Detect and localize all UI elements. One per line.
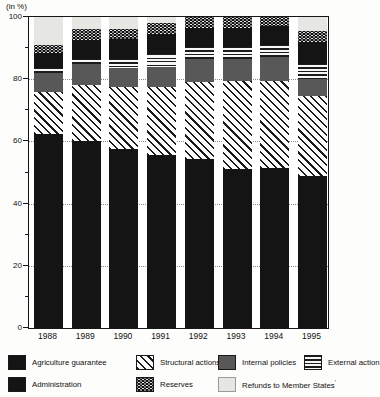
plot-area — [28, 16, 329, 329]
segment-refunds-1988 — [34, 17, 63, 45]
segment-agriculture-1990 — [109, 149, 138, 328]
bar-1992 — [185, 17, 214, 328]
legend-item-administration: Administration — [8, 377, 136, 392]
legend-label: Reserves — [160, 380, 193, 389]
segment-reserves-1991 — [147, 23, 176, 34]
segment-external-1995 — [298, 64, 327, 80]
segment-administration-1993 — [223, 28, 252, 47]
bars — [29, 17, 328, 328]
segment-internal-1994 — [260, 57, 289, 80]
segment-agriculture-1991 — [147, 155, 176, 328]
y-tick-label: 100 — [2, 12, 22, 21]
segment-internal-1993 — [223, 59, 252, 81]
y-tick-label: 20 — [2, 260, 22, 269]
legend-label: Refunds to Member States′ — [242, 379, 336, 390]
x-tick-label: 1990 — [108, 331, 137, 341]
segment-administration-1994 — [260, 26, 289, 45]
x-tick-label: 1989 — [71, 331, 100, 341]
segment-agriculture-1993 — [223, 169, 252, 328]
segment-internal-1991 — [147, 67, 176, 87]
legend-item-refunds: Refunds to Member States′ — [218, 377, 304, 392]
segment-external-1991 — [147, 54, 176, 66]
segment-internal-1992 — [185, 59, 214, 82]
segment-internal-1990 — [109, 68, 138, 87]
segment-administration-1989 — [72, 40, 101, 59]
footnote-mark: ′ — [335, 379, 336, 385]
segment-structural-1993 — [223, 81, 252, 170]
segment-reserves-1990 — [109, 29, 138, 38]
segment-reserves-1988 — [34, 45, 63, 53]
legend-item-agriculture: Agriculture guarantee — [8, 355, 136, 370]
segment-reserves-1993 — [223, 17, 252, 28]
y-tick-label: 40 — [2, 198, 22, 207]
x-tick-label: 1992 — [184, 331, 213, 341]
y-tick-label: 60 — [2, 136, 22, 145]
segment-external-1992 — [185, 47, 214, 59]
segment-reserves-1994 — [260, 17, 289, 26]
segment-structural-1995 — [298, 96, 327, 175]
segment-internal-1989 — [72, 64, 101, 86]
segment-structural-1989 — [72, 85, 101, 141]
segment-refunds-1995 — [298, 17, 327, 31]
x-tick-label: 1995 — [297, 331, 326, 341]
external-swatch-icon — [304, 355, 322, 370]
segment-external-1990 — [109, 59, 138, 68]
segment-structural-1990 — [109, 87, 138, 149]
legend-item-reserves: Reserves — [136, 377, 218, 392]
segment-structural-1988 — [34, 92, 63, 134]
segment-administration-1992 — [185, 28, 214, 47]
segment-internal-1995 — [298, 79, 327, 96]
bar-1988 — [34, 17, 63, 328]
agriculture-swatch-icon — [8, 355, 26, 370]
segment-refunds-1990 — [109, 17, 138, 29]
segment-refunds-1989 — [72, 17, 101, 29]
legend-row-1: Agriculture guaranteeStructural actionsI… — [8, 351, 376, 373]
x-axis-labels: 19881989199019911992199319941995 — [28, 331, 327, 341]
segment-reserves-1992 — [185, 17, 214, 28]
x-tick-label: 1994 — [259, 331, 288, 341]
segment-internal-1988 — [34, 73, 63, 92]
legend-label: External action — [328, 358, 380, 367]
segment-agriculture-1992 — [185, 159, 214, 329]
reserves-swatch-icon — [136, 377, 154, 392]
page-root: { "unit_label": "(in %)", "chart_data": … — [0, 0, 380, 397]
bar-1994 — [260, 17, 289, 328]
segment-agriculture-1988 — [34, 134, 63, 328]
administration-swatch-icon — [8, 377, 26, 392]
legend-item-structural: Structural actions — [136, 355, 218, 370]
segment-reserves-1989 — [72, 29, 101, 40]
bar-1991 — [147, 17, 176, 328]
bar-1990 — [109, 17, 138, 328]
legend: Agriculture guaranteeStructural actionsI… — [8, 351, 376, 395]
bar-1995 — [298, 17, 327, 328]
refunds-swatch-icon — [218, 377, 236, 392]
segment-administration-1995 — [298, 42, 327, 64]
x-tick-label: 1993 — [222, 331, 251, 341]
segment-administration-1990 — [109, 39, 138, 59]
segment-structural-1991 — [147, 87, 176, 155]
internal-swatch-icon — [218, 355, 236, 370]
segment-administration-1988 — [34, 53, 63, 69]
bar-1993 — [223, 17, 252, 328]
segment-external-1994 — [260, 45, 289, 57]
x-tick-label: 1991 — [146, 331, 175, 341]
stacked-bar-chart: (in %) 020406080100 19881989199019911992… — [0, 0, 380, 397]
bar-1989 — [72, 17, 101, 328]
segment-agriculture-1989 — [72, 141, 101, 328]
legend-item-external: External action — [304, 355, 380, 370]
segment-structural-1994 — [260, 81, 289, 168]
legend-label: Agriculture guarantee — [32, 358, 107, 367]
legend-item-internal: Internal policies — [218, 355, 304, 370]
segment-reserves-1995 — [298, 31, 327, 42]
segment-external-1993 — [223, 47, 252, 59]
x-tick-label: 1988 — [33, 331, 62, 341]
legend-label: Structural actions — [160, 358, 220, 367]
segment-administration-1991 — [147, 34, 176, 54]
legend-row-2: AdministrationReservesRefunds to Member … — [8, 373, 376, 395]
axis-unit-label: (in %) — [6, 2, 27, 11]
y-tick-label: 80 — [2, 74, 22, 83]
legend-label: Internal policies — [242, 358, 296, 367]
y-tick-label: 0 — [2, 323, 22, 332]
segment-agriculture-1994 — [260, 168, 289, 328]
structural-swatch-icon — [136, 355, 154, 370]
